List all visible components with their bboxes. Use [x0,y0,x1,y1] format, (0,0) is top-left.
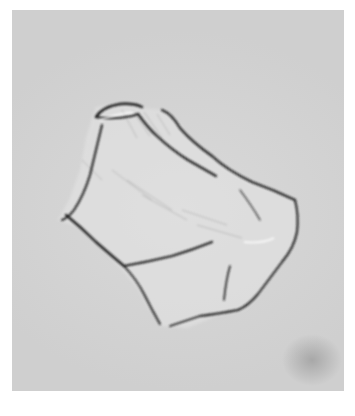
fragment-drawing [12,10,344,391]
micrograph-image [12,10,344,391]
figure-caption [22,408,342,416]
